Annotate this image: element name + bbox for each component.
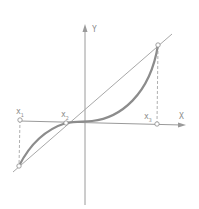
y-axis-label: Y — [92, 26, 97, 34]
point-label-x1: x1 — [16, 108, 24, 119]
point-top-marker — [156, 43, 160, 47]
secant-line — [13, 34, 172, 172]
function-plot — [0, 0, 199, 209]
cubic-curve — [19, 45, 158, 166]
dashed-drop-x1 — [19, 120, 20, 166]
diagram-canvas: Y X x1 x2 x3 — [0, 0, 199, 209]
x-axis-arrow-icon — [178, 123, 186, 128]
dashed-drop-x3 — [157, 46, 158, 123]
point-bottom-marker — [17, 164, 21, 168]
x-axis-label: X — [179, 113, 184, 121]
point-x3-marker — [155, 122, 159, 126]
point-label-x3: x3 — [144, 113, 152, 124]
y-axis-arrow-icon — [83, 24, 88, 32]
point-label-x2: x2 — [61, 111, 69, 122]
